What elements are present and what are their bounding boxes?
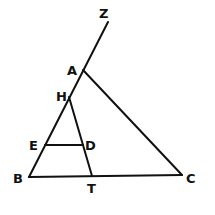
label-A: A	[67, 63, 77, 78]
line-AC	[83, 70, 182, 175]
line-BZ	[29, 22, 108, 177]
line-BC	[29, 175, 182, 177]
geometry-diagram: Z A H E D B T C	[0, 0, 215, 215]
line-HT	[69, 97, 92, 176]
label-H: H	[56, 89, 67, 104]
label-E: E	[29, 138, 38, 153]
label-B: B	[13, 171, 23, 186]
label-D: D	[85, 138, 96, 153]
label-C: C	[186, 171, 196, 186]
label-Z: Z	[99, 6, 108, 21]
label-T: T	[87, 181, 96, 196]
